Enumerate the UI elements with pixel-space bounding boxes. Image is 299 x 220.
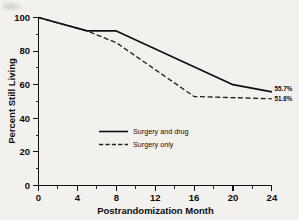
x-axis-title: Postrandomization Month [97, 205, 214, 216]
legend-label-surgery-and-drug: Surgery and drug [133, 127, 189, 136]
y-axis-tick-labels: 0 20 40 60 80 100 [14, 12, 30, 191]
axis-lines [39, 17, 273, 186]
x-tick-label-0: 0 [36, 192, 41, 203]
x-axis-major-ticks [39, 186, 272, 192]
x-tick-label-12: 12 [150, 192, 161, 203]
chart-canvas: 55.7% 51.6% 0 20 40 60 80 100 0 4 8 12 1… [0, 0, 299, 220]
y-tick-label-20: 20 [19, 146, 30, 157]
series-line-surgery-and-drug [39, 18, 272, 92]
survival-chart-figure: 55.7% 51.6% 0 20 40 60 80 100 0 4 8 12 1… [0, 0, 299, 220]
y-tick-label-100: 100 [14, 12, 30, 23]
endpoint-label-surgery-only: 51.6% [275, 95, 293, 102]
x-tick-label-24: 24 [267, 192, 278, 203]
legend-label-surgery-only: Surgery only [133, 140, 174, 149]
y-tick-label-40: 40 [19, 113, 30, 124]
y-tick-label-60: 60 [19, 79, 30, 90]
x-tick-label-8: 8 [114, 192, 119, 203]
x-tick-label-20: 20 [228, 192, 239, 203]
x-axis-tick-labels: 0 4 8 12 16 20 24 [36, 192, 278, 203]
chart-legend: Surgery and drug Surgery only [99, 127, 189, 149]
y-axis-title: Percent Still Living [6, 58, 17, 144]
series-line-surgery-only [39, 18, 272, 99]
x-tick-label-16: 16 [189, 192, 200, 203]
endpoint-label-surgery-and-drug: 55.7% [275, 85, 293, 92]
y-tick-label-0: 0 [25, 180, 30, 191]
x-tick-label-4: 4 [75, 192, 81, 203]
y-tick-label-80: 80 [19, 45, 30, 56]
